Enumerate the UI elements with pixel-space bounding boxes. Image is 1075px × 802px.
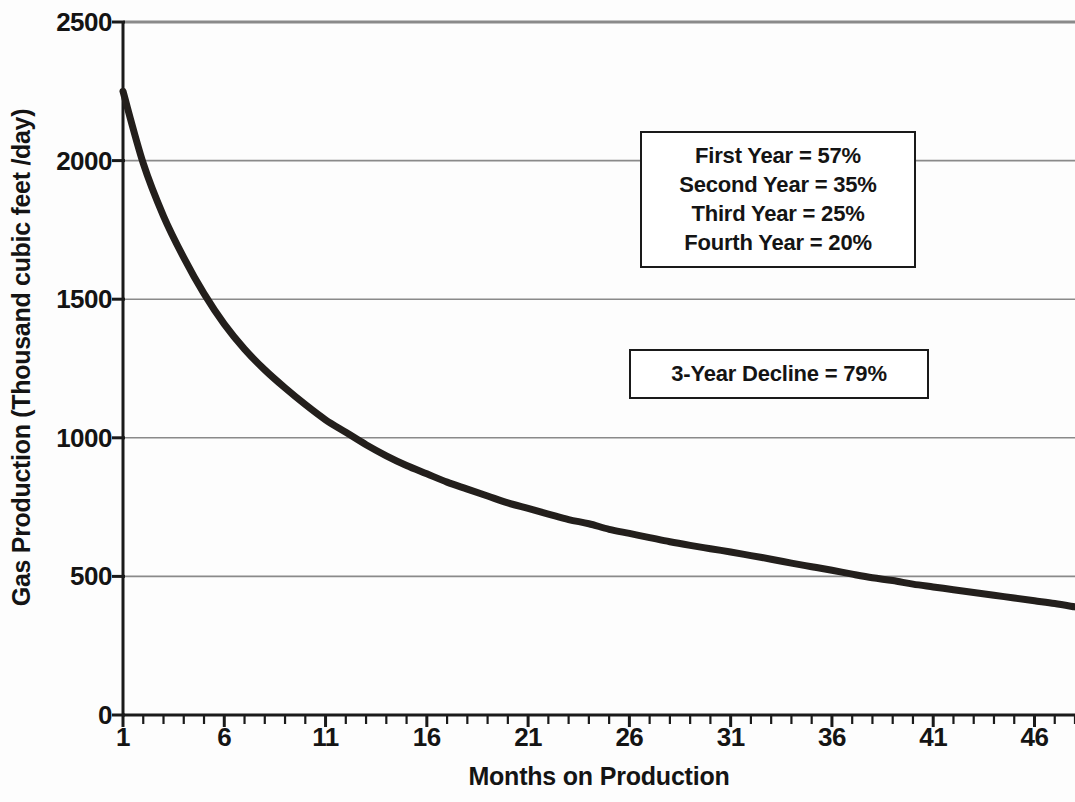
- annotation-line: Second Year = 35%: [656, 170, 900, 199]
- x-axis-title: Months on Production: [123, 762, 1075, 791]
- annotation-line: 3-Year Decline = 79%: [641, 360, 917, 387]
- annotation-decline-rates: First Year = 57% Second Year = 35% Third…: [640, 131, 916, 268]
- annotation-line: First Year = 57%: [656, 141, 900, 170]
- gridlines: [123, 22, 1075, 576]
- annotation-line: Third Year = 25%: [656, 199, 900, 228]
- annotation-line: Fourth Year = 20%: [656, 228, 900, 257]
- plot-area: [0, 0, 1075, 802]
- production-decline-curve: [123, 91, 1075, 607]
- annotation-three-year-decline: 3-Year Decline = 79%: [629, 349, 929, 399]
- decline-curve-figure: Gas Production (Thousand cubic feet /day…: [0, 0, 1075, 802]
